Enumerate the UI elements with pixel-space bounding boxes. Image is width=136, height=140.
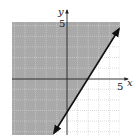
y-axis-label: y — [57, 6, 64, 17]
graph-plot: y 5 x 5 — [0, 0, 136, 140]
x-tick-label: 5 — [117, 81, 123, 92]
x-axis-label: x — [127, 77, 133, 88]
y-tick-label: 5 — [59, 18, 65, 29]
